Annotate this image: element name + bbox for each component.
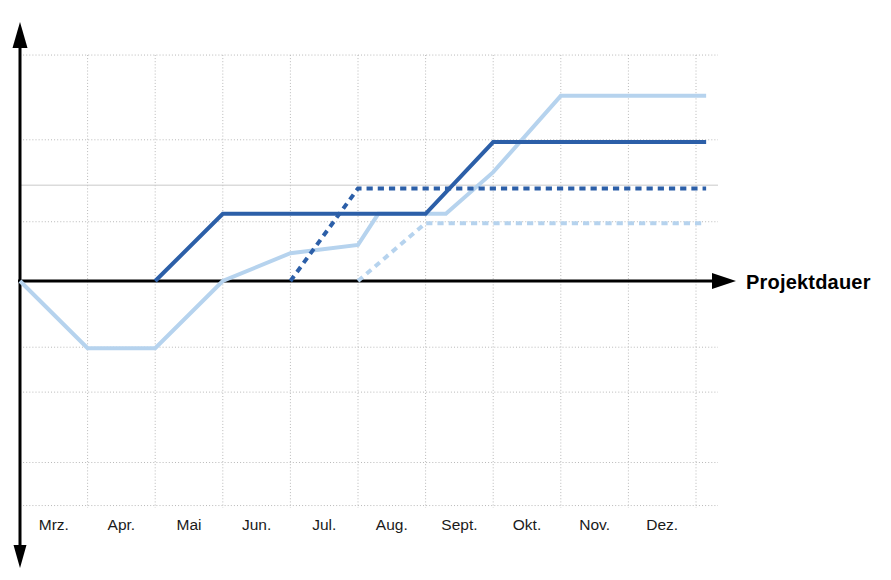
chart-container: Mrz.Apr.MaiJun.Jul.Aug.Sept.Okt.Nov.Dez.… bbox=[0, 0, 891, 580]
x-tick-label: Jul. bbox=[312, 516, 336, 533]
x-tick-label: Sept. bbox=[441, 516, 477, 533]
x-axis-title: Projektdauer bbox=[746, 271, 871, 293]
x-tick-label: Okt. bbox=[513, 516, 541, 533]
project-duration-line-chart: Mrz.Apr.MaiJun.Jul.Aug.Sept.Okt.Nov.Dez.… bbox=[0, 0, 891, 580]
x-tick-label: Jun. bbox=[242, 516, 271, 533]
x-tick-label: Apr. bbox=[108, 516, 136, 533]
x-tick-label: Aug. bbox=[376, 516, 408, 533]
x-tick-label: Mai bbox=[177, 516, 202, 533]
x-tick-label: Nov. bbox=[579, 516, 610, 533]
x-tick-label: Mrz. bbox=[39, 516, 69, 533]
x-tick-label: Dez. bbox=[646, 516, 678, 533]
